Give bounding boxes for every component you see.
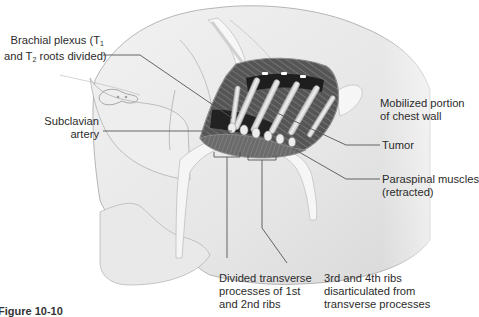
figure-caption: Figure 10-10 bbox=[0, 305, 63, 317]
label-tumor: Tumor bbox=[382, 139, 414, 152]
label-divided-transverse-processes: Divided transverse processes of 1st and … bbox=[219, 272, 312, 311]
label-paraspinal-muscles: Paraspinal muscles (retracted) bbox=[382, 173, 479, 199]
label-3rd-4th-ribs: 3rd and 4th ribs disarticulated from tra… bbox=[324, 272, 430, 311]
label-subclavian-artery: Subclavian artery bbox=[20, 115, 99, 141]
label-mobilized-chest-wall: Mobilized portion of chest wall bbox=[380, 97, 465, 123]
label-brachial-plexus: Brachial plexus (T1 and T2 roots divided… bbox=[4, 34, 104, 66]
